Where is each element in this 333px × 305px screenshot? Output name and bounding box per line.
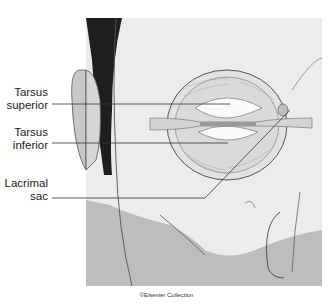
eye-anatomy-illustration [0,0,333,305]
label-line2: superior [6,99,48,112]
label-line1: Tarsus [6,86,48,99]
label-line2: inferior [13,139,48,152]
label-line2: sac [5,190,48,203]
copyright-credit: ©Elsevier Collection [0,292,333,298]
label-tarsus-superior: Tarsus superior [6,86,48,111]
label-line1: Lacrimal [5,177,48,190]
label-tarsus-inferior: Tarsus inferior [13,126,48,151]
label-line1: Tarsus [13,126,48,139]
label-lacrimal-sac: Lacrimal sac [5,177,48,202]
